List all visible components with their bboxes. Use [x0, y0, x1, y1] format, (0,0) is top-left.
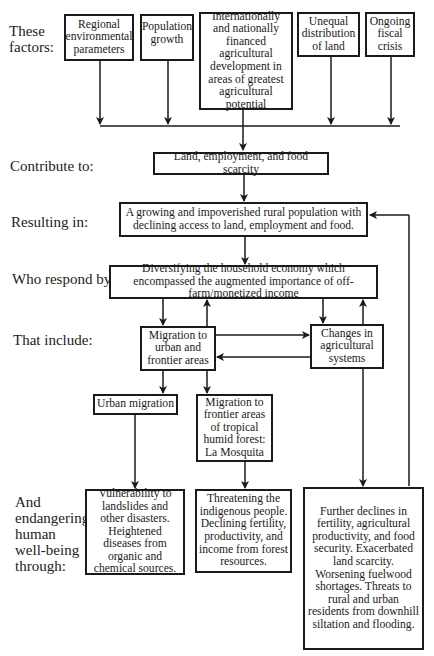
frontier-migration-text: Migration to frontier areas of tropical … — [200, 397, 269, 460]
urban-migration-box: Urban migration — [93, 394, 178, 415]
factor-text: Unequal distribution of land — [301, 16, 356, 54]
factor-text: Ongoing fiscal crisis — [369, 16, 411, 54]
stage-label-resulting: Resulting in: — [11, 214, 88, 230]
scarcity-text: Land, employment, and food scarcity — [157, 151, 325, 176]
stage-label-endangering: And endangering human well-being through… — [15, 494, 83, 574]
factor-population-growth: Population growth — [140, 14, 194, 61]
rural-population-box: A growing and impoverished rural populat… — [119, 202, 368, 237]
migration-urban-frontier-box: Migration to urban and frontier areas — [140, 326, 216, 371]
stage-label-include: That include: — [13, 332, 93, 348]
outcome-urban-text: Vulnerability to landslides and other di… — [89, 488, 181, 576]
factor-text: Internationally and nationally financed … — [203, 11, 289, 112]
scarcity-box: Land, employment, and food scarcity — [153, 152, 329, 175]
outcome-urban-vulnerability: Vulnerability to landslides and other di… — [85, 489, 185, 575]
factor-regional-environmental-parameters: Regional environmental parameters — [64, 14, 134, 61]
factor-ongoing-fiscal-crisis: Ongoing fiscal crisis — [365, 12, 415, 57]
migration-text: Migration to urban and frontier areas — [144, 330, 212, 368]
outcome-agricultural-declines: Further declines in fertility, agricultu… — [303, 487, 424, 650]
stage-label-factors: These factors: — [9, 23, 54, 55]
factor-text: Regional environmental parameters — [66, 19, 133, 57]
factor-text: Population growth — [142, 21, 192, 46]
factor-unequal-land-distribution: Unequal distribution of land — [297, 12, 360, 57]
rural-population-text: A growing and impoverished rural populat… — [123, 207, 364, 232]
stage-label-factors-text: These factors: — [9, 23, 54, 55]
urban-migration-text: Urban migration — [97, 398, 174, 411]
diversifying-text: Diversifying the household economy which… — [113, 263, 374, 301]
stage-label-contribute: Contribute to: — [10, 158, 94, 174]
stage-label-respond: Who respond by: — [12, 271, 115, 287]
diversifying-household-economy-box: Diversifying the household economy which… — [109, 265, 378, 299]
factor-financed-agricultural-development: Internationally and nationally financed … — [199, 12, 293, 110]
agricultural-changes-text: Changes in agricultural systems — [314, 328, 380, 366]
outcome-agricultural-text: Further declines in fertility, agricultu… — [307, 506, 420, 632]
outcome-frontier-text: Threatening the indigenous people. Decli… — [199, 493, 288, 569]
agricultural-changes-box: Changes in agricultural systems — [310, 324, 384, 369]
outcome-frontier-threats: Threatening the indigenous people. Decli… — [195, 489, 292, 573]
frontier-migration-box: Migration to frontier areas of tropical … — [196, 394, 273, 462]
